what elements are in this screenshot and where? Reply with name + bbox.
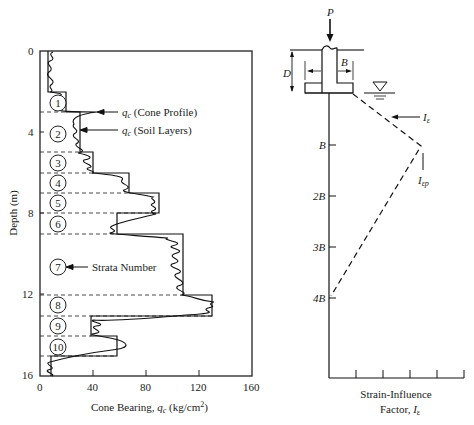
x-axis-label: Cone Bearing, qc (kg/cm2) (91, 400, 208, 415)
stratum-6: 6 (55, 218, 61, 230)
strain-influence-diagram: P D B B (282, 6, 464, 417)
stratum-7: 7 (55, 261, 61, 273)
cone-chart: 0 4 8 12 16 0 40 80 120 160 Depth (m) Co… (7, 45, 260, 415)
arrow-left-icon (391, 115, 398, 120)
stratum-4: 4 (55, 177, 61, 189)
load-label: P (326, 6, 334, 18)
stratum-3: 3 (55, 157, 61, 169)
depth-axis-ticks (329, 145, 336, 298)
iz-label: Iε (422, 111, 431, 125)
x-tick-120: 120 (190, 381, 207, 393)
y-tick-0: 0 (28, 45, 34, 57)
stratum-8: 8 (55, 299, 61, 311)
stratum-2: 2 (55, 128, 61, 140)
y-tick-12: 12 (22, 288, 33, 300)
soil-layers-label: qc (Soil Layers) (122, 124, 192, 138)
cone-profile-label: qc (Cone Profile) (122, 106, 197, 120)
arrow-right-icon (346, 69, 352, 73)
depth-label: D (282, 67, 291, 79)
depth-tick-2B: 2B (313, 190, 326, 202)
cone-profile-line (47, 52, 214, 376)
depth-tick-3B: 3B (312, 241, 326, 253)
x-tick-160: 160 (243, 381, 260, 393)
x-tick-80: 80 (140, 381, 152, 393)
arrow-left-icon (307, 69, 313, 73)
stratum-1: 1 (55, 97, 61, 109)
strain-influence-line (331, 94, 421, 296)
load-arrowhead-icon (327, 34, 334, 42)
factor-axis-label-line2: Factor, Iε (380, 403, 421, 417)
arrow-up-icon (290, 51, 294, 57)
arrow-down-icon (290, 86, 294, 92)
y-axis-label: Depth (m) (7, 190, 20, 236)
water-table-icon (373, 82, 387, 91)
y-tick-16: 16 (22, 369, 34, 381)
factor-axis-label-line1: Strain-Influence (360, 388, 432, 400)
x-tick-40: 40 (87, 381, 99, 393)
y-tick-8: 8 (28, 207, 34, 219)
y-tick-4: 4 (28, 126, 34, 138)
factor-axis-ticks (356, 370, 464, 378)
stratum-9: 9 (55, 320, 61, 332)
depth-tick-4B: 4B (313, 292, 326, 304)
izp-label: Iεp (417, 174, 429, 188)
figure: 0 4 8 12 16 0 40 80 120 160 Depth (m) Co… (0, 0, 474, 425)
width-label: B (341, 56, 348, 68)
x-ticks (93, 370, 199, 376)
strata-number-label: Strata Number (92, 261, 157, 273)
x-tick-0: 0 (37, 381, 43, 393)
stratum-10: 10 (53, 341, 65, 353)
depth-tick-B: B (319, 139, 326, 151)
stratum-5: 5 (55, 197, 61, 209)
soil-layer-profile (48, 51, 212, 376)
